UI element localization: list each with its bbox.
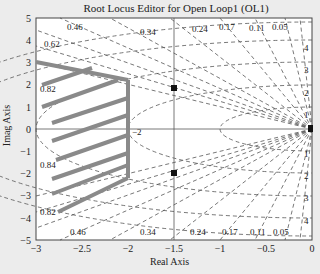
svg-text:1: 1 <box>304 110 309 120</box>
plot-canvas[interactable]: −2 0.62 0.46 0.34 0.24 0.17 0.11 0.05 0.… <box>0 0 320 274</box>
svg-text:−3: −3 <box>20 190 31 201</box>
svg-text:0: 0 <box>310 243 315 254</box>
svg-text:0.84: 0.84 <box>40 160 56 170</box>
svg-text:5: 5 <box>26 13 31 24</box>
svg-text:0.17: 0.17 <box>219 22 235 32</box>
svg-text:2: 2 <box>304 171 309 181</box>
svg-text:0.11: 0.11 <box>249 23 264 33</box>
x-tick-labels: −3 −2.5 −2 −1.5 −1 −0.5 0 <box>31 243 315 254</box>
svg-text:0.46: 0.46 <box>70 227 86 237</box>
svg-text:4: 4 <box>304 43 309 53</box>
svg-text:−2: −2 <box>20 168 31 179</box>
svg-text:0.46: 0.46 <box>67 22 83 32</box>
open-loop-pole-origin[interactable] <box>308 125 313 132</box>
x-axis-label: Real Axis <box>150 256 189 267</box>
svg-text:−2.5: −2.5 <box>73 243 91 254</box>
svg-text:−5: −5 <box>20 235 31 246</box>
y-axis-label: Imag Axis <box>1 105 12 146</box>
svg-text:−1: −1 <box>215 243 226 254</box>
svg-text:0.82: 0.82 <box>40 84 56 94</box>
svg-text:0.24: 0.24 <box>192 24 208 34</box>
svg-text:3: 3 <box>26 57 31 68</box>
svg-text:−1.5: −1.5 <box>165 243 183 254</box>
svg-text:0.82: 0.82 <box>40 207 56 217</box>
svg-text:−4: −4 <box>20 213 31 224</box>
svg-text:4: 4 <box>26 35 31 46</box>
y-tick-labels: 5 4 3 2 1 0 −1 −2 −3 −4 −5 <box>20 13 31 246</box>
svg-text:2: 2 <box>26 79 31 90</box>
svg-text:0: 0 <box>26 124 31 135</box>
svg-text:0.11: 0.11 <box>250 227 265 237</box>
svg-text:1: 1 <box>304 149 309 159</box>
svg-text:1: 1 <box>26 102 31 113</box>
svg-text:−0.5: −0.5 <box>257 243 275 254</box>
svg-text:0.62: 0.62 <box>44 39 60 49</box>
svg-text:4: 4 <box>304 216 309 226</box>
svg-text:−2: −2 <box>123 243 134 254</box>
svg-text:3: 3 <box>304 65 309 75</box>
svg-text:0.05: 0.05 <box>272 22 288 32</box>
locus-annotation: −2 <box>132 127 142 137</box>
closed-loop-pole-upper[interactable] <box>171 85 177 91</box>
svg-text:0.05: 0.05 <box>273 227 289 237</box>
closed-loop-pole-lower[interactable] <box>171 170 177 176</box>
svg-text:2: 2 <box>304 88 309 98</box>
svg-text:0.34: 0.34 <box>140 27 156 37</box>
svg-text:0.24: 0.24 <box>190 227 206 237</box>
root-locus-figure: Root Locus Editor for Open Loop1 (OL1) <box>0 0 320 274</box>
svg-text:0.34: 0.34 <box>140 227 156 237</box>
svg-text:−3: −3 <box>31 243 42 254</box>
svg-text:3: 3 <box>304 193 309 203</box>
svg-text:−1: −1 <box>20 146 31 157</box>
svg-text:0.17: 0.17 <box>222 227 238 237</box>
